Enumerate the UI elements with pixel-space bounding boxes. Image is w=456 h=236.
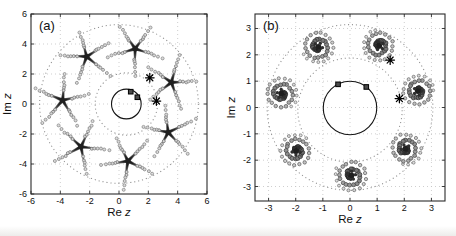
star-cluster xyxy=(147,54,198,111)
x-tick-label: 2 xyxy=(146,196,151,206)
y-tick-label: 6 xyxy=(22,9,27,19)
star-cluster xyxy=(34,73,90,128)
x-tick-label: -6 xyxy=(27,196,35,206)
x-tick-label: 3 xyxy=(429,203,434,213)
panel-b: -3-2-10123-3-2-10123Re zIm z(b) xyxy=(225,14,445,225)
asterisk-marker xyxy=(395,94,404,103)
x-tick-label: -2 xyxy=(292,203,300,213)
x-tick-label: -2 xyxy=(86,196,94,206)
y-tick-label: -1 xyxy=(243,129,251,139)
y-tick-labels: -3-2-10123 xyxy=(243,23,251,191)
panel-a: -6-4-20246-6-4-20246Re zIm z(a) xyxy=(1,9,210,218)
panel-letter: (a) xyxy=(39,18,55,33)
y-tick-label: 2 xyxy=(22,69,27,79)
scanned-figure-page: -6-4-20246-6-4-20246Re zIm z(a)-3-2-1012… xyxy=(0,0,456,236)
complex-plane-two-panel-figure: -6-4-20246-6-4-20246Re zIm z(a)-3-2-1012… xyxy=(0,0,456,236)
y-tick-labels: -6-4-20246 xyxy=(19,9,27,199)
spiral-cluster xyxy=(391,133,423,166)
star-cluster xyxy=(142,104,197,157)
star-cluster xyxy=(59,31,112,84)
x-tick-label: -1 xyxy=(319,203,327,213)
y-tick-label: 0 xyxy=(246,103,251,113)
y-axis-label: Im z xyxy=(225,96,237,118)
y-tick-label: 0 xyxy=(22,99,27,109)
x-axis-label: Re z xyxy=(338,213,362,225)
asterisk-marker xyxy=(146,73,155,82)
y-tick-label: 4 xyxy=(22,39,27,49)
square-marker xyxy=(128,89,133,94)
x-tick-label: 4 xyxy=(175,196,180,206)
asterisk-markers xyxy=(386,56,404,103)
spiral-cluster xyxy=(302,31,335,64)
x-tick-label: 0 xyxy=(347,203,352,213)
square-marker xyxy=(364,85,369,90)
y-tick-label: -2 xyxy=(19,129,27,139)
star-cluster xyxy=(106,25,164,77)
square-marker xyxy=(135,95,140,100)
panel-letter: (b) xyxy=(263,18,279,33)
x-tick-labels: -3-2-10123 xyxy=(265,203,434,213)
x-tick-label: 1 xyxy=(375,203,380,213)
y-tick-label: 3 xyxy=(246,23,251,33)
spiral-cluster xyxy=(279,134,311,167)
y-tick-label: 2 xyxy=(246,50,251,60)
x-axis-label: Re z xyxy=(107,206,131,218)
y-axis-label: Im z xyxy=(1,93,13,115)
x-tick-label: 6 xyxy=(204,196,209,206)
square-marker xyxy=(336,82,341,87)
spiral-cluster xyxy=(402,74,435,106)
asterisk-marker xyxy=(152,97,161,106)
x-tick-labels: -6-4-20246 xyxy=(27,196,210,206)
spiral-cluster xyxy=(266,77,298,109)
star-clusters xyxy=(34,25,198,191)
y-tick-label: 1 xyxy=(246,76,251,86)
x-tick-label: -3 xyxy=(265,203,273,213)
x-tick-label: 0 xyxy=(116,196,121,206)
y-tick-label: -3 xyxy=(243,182,251,192)
y-tick-label: -2 xyxy=(243,155,251,165)
square-markers xyxy=(336,82,369,89)
spiral-cluster xyxy=(334,160,367,192)
asterisk-marker xyxy=(386,56,395,65)
y-tick-label: -6 xyxy=(19,189,27,199)
asterisk-markers xyxy=(146,73,161,105)
star-cluster xyxy=(53,120,111,176)
y-tick-label: -4 xyxy=(19,159,27,169)
x-tick-label: -4 xyxy=(56,196,64,206)
x-tick-label: 2 xyxy=(402,203,407,213)
